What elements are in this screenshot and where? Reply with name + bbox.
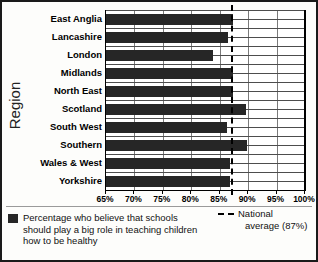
- bar: [106, 104, 246, 115]
- x-tick-label-100: 100%: [284, 194, 318, 204]
- bar: [106, 122, 227, 133]
- legend-swatch-icon: [8, 214, 18, 223]
- legend-average-label: National average (87%): [238, 208, 316, 231]
- bar: [106, 158, 230, 169]
- category-label-southern: Southern: [28, 140, 102, 150]
- bar: [106, 50, 213, 61]
- bar: [106, 32, 228, 43]
- right-axis-line: [304, 10, 306, 191]
- category-label-yorkshire: Yorkshire: [28, 176, 102, 186]
- chart-panel: Region East AngliaLancashireLondonMidlan…: [2, 2, 316, 204]
- dashed-line-icon: [218, 213, 234, 215]
- category-label-north-east: North East: [28, 86, 102, 96]
- horizontal-gridline: [106, 10, 305, 11]
- category-label-wales-west: Wales & West: [28, 158, 102, 168]
- bar: [106, 68, 233, 79]
- category-label-midlands: Midlands: [28, 68, 102, 78]
- plot-area: [105, 10, 305, 191]
- legend-series-label-line1: Percentage who believe that schools: [23, 212, 178, 223]
- chart-frame: Region East AngliaLancashireLondonMidlan…: [0, 0, 318, 262]
- horizontal-gridline: [106, 154, 305, 155]
- horizontal-gridline: [106, 172, 305, 173]
- horizontal-gridline: [106, 100, 305, 101]
- legend-average-label-line2: average (87%): [245, 220, 316, 232]
- category-label-south-west: South West: [28, 122, 102, 132]
- legend-divider: [6, 206, 312, 207]
- category-label-lancashire: Lancashire: [28, 32, 102, 42]
- legend-series-label-line2: should play a big role in teaching: [23, 224, 161, 235]
- horizontal-gridline: [106, 64, 305, 65]
- category-label-east-anglia: East Anglia: [28, 14, 102, 24]
- horizontal-gridline: [106, 46, 305, 47]
- horizontal-gridline: [106, 136, 305, 137]
- x-axis-ticks: 65%70%75%80%85%90%95%100%: [105, 190, 305, 206]
- bar: [106, 140, 247, 151]
- legend-series-label: Percentage who believe that schools shou…: [23, 212, 203, 247]
- bar: [106, 86, 233, 97]
- category-label-london: London: [28, 50, 102, 60]
- horizontal-gridline: [106, 82, 305, 83]
- category-axis-labels: East AngliaLancashireLondonMidlandsNorth…: [28, 10, 102, 190]
- category-label-scotland: Scotland: [28, 104, 102, 114]
- y-axis-title: Region: [6, 73, 23, 139]
- chart-legend: Percentage who believe that schools shou…: [2, 208, 316, 262]
- national-average-line: [231, 5, 233, 195]
- legend-average-label-line1: National: [238, 208, 273, 219]
- horizontal-gridline: [106, 118, 305, 119]
- bar: [106, 14, 233, 25]
- plot-inner: [106, 10, 305, 190]
- bar: [106, 176, 230, 187]
- horizontal-gridline: [106, 28, 305, 29]
